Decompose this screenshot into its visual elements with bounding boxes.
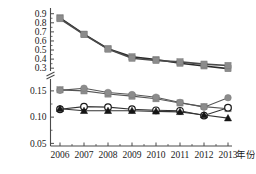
line-chart: 0.90.80.70.60.50.40.30.150.100.052006200… — [0, 0, 255, 174]
marker-circle — [153, 94, 160, 101]
marker-square — [177, 59, 183, 65]
x-tick-label: 2009 — [123, 150, 142, 160]
y-ticks-upper: 0.90.80.70.60.50.40.30.150.100.052006200… — [30, 9, 255, 160]
axes: 0.90.80.70.60.50.40.30.150.100.052006200… — [30, 8, 255, 160]
y-tick-label: 0.15 — [30, 86, 47, 96]
x-axis-title: 年份 — [236, 149, 255, 160]
marker-square — [57, 16, 63, 22]
marker-circle — [201, 104, 208, 111]
x-tick-label: 2008 — [99, 150, 118, 160]
x-tick-label: 2013 — [219, 150, 238, 160]
x-tick-label: 2012 — [195, 150, 214, 160]
marker-circle — [225, 94, 232, 101]
marker-square — [225, 62, 231, 68]
series-upper-2 — [57, 16, 231, 69]
marker-circle — [129, 91, 136, 98]
marker-circle — [57, 87, 64, 94]
chart-container: 0.90.80.70.60.50.40.30.150.100.052006200… — [0, 0, 255, 174]
marker-square — [129, 55, 135, 61]
marker-circle-open — [225, 104, 232, 111]
y-tick-label: 0.10 — [30, 112, 47, 122]
x-tick-label: 2007 — [75, 150, 94, 160]
x-tick-label: 2011 — [171, 150, 190, 160]
marker-circle — [105, 89, 112, 96]
marker-square — [153, 57, 159, 63]
marker-circle — [81, 85, 88, 92]
x-tick-label: 2010 — [147, 150, 166, 160]
marker-circle — [177, 99, 184, 106]
x-ticks: 20062007200820092010201120122013年份 — [51, 143, 256, 161]
axis-break-icon — [47, 72, 55, 79]
x-tick-label: 2006 — [51, 150, 70, 160]
y-tick-label: 0.05 — [30, 139, 47, 149]
marker-square — [201, 61, 207, 67]
marker-square — [105, 46, 111, 52]
y-tick-label: 0.3 — [35, 63, 47, 73]
marker-square — [81, 32, 87, 38]
